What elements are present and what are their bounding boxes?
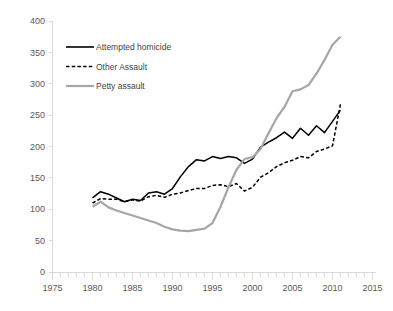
y-tick-label: 400 — [30, 16, 45, 26]
y-tick-label: 200 — [30, 142, 45, 152]
y-tick-label: 250 — [30, 110, 45, 120]
x-axis: 197519801985199019952000200520102015 — [42, 273, 382, 294]
y-tick-label: 150 — [30, 173, 45, 183]
series-line-other-assault — [93, 104, 341, 203]
y-tick-label: 0 — [40, 267, 45, 277]
y-axis: 050100150200250300350400 — [30, 16, 53, 277]
chart-canvas: 050100150200250300350400 197519801985199… — [0, 0, 393, 311]
x-tick-label: 2015 — [362, 283, 382, 293]
y-tick-label: 100 — [30, 204, 45, 214]
x-axis-tick-labels: 197519801985199019952000200520102015 — [42, 283, 382, 293]
legend-label: Petty assault — [96, 81, 145, 91]
x-tick-label: 1990 — [162, 283, 182, 293]
x-tick-label: 1975 — [42, 283, 62, 293]
y-axis-tick-labels: 050100150200250300350400 — [30, 16, 45, 277]
y-tick-label: 50 — [35, 236, 45, 246]
line-chart: 050100150200250300350400 197519801985199… — [0, 0, 393, 311]
legend-label: Other Assault — [96, 62, 148, 72]
x-tick-label: 2005 — [282, 283, 302, 293]
x-tick-label: 1995 — [202, 283, 222, 293]
legend-label: Attempted homicide — [96, 42, 171, 52]
x-tick-label: 1980 — [82, 283, 102, 293]
y-axis-ticks — [49, 21, 53, 272]
y-tick-label: 300 — [30, 79, 45, 89]
x-tick-label: 2010 — [322, 283, 342, 293]
x-tick-label: 1985 — [122, 283, 142, 293]
series-line-attempted-homicide — [93, 110, 341, 202]
x-tick-label: 2000 — [242, 283, 262, 293]
chart-legend: Attempted homicideOther AssaultPetty ass… — [66, 42, 171, 91]
y-tick-label: 350 — [30, 48, 45, 58]
